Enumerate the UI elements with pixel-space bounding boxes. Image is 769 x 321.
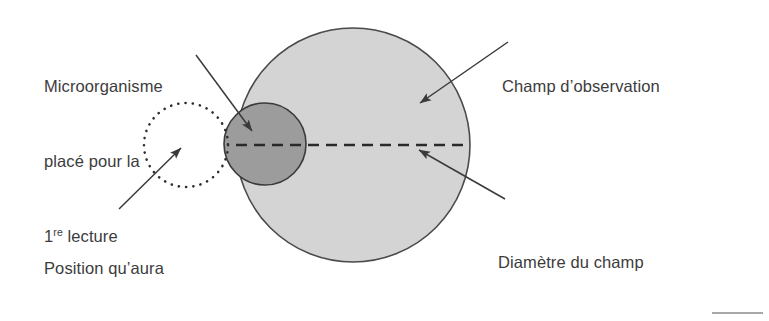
label-champ-line-1: Champ d’observation bbox=[502, 74, 660, 99]
diagram-figure: Microorganisme placé pour la 1re lecture… bbox=[0, 0, 769, 321]
label-microorganisme-line-1: Microorganisme bbox=[44, 74, 163, 99]
label-champ-observation: Champ d’observation bbox=[502, 24, 660, 149]
leader-microorganisme-arrow bbox=[196, 55, 252, 131]
label-position: Position qu’aura le microorganisme pour … bbox=[44, 206, 181, 321]
label-position-line-1: Position qu’aura bbox=[44, 256, 181, 281]
label-microorganisme-line-2: placé pour la bbox=[44, 149, 163, 174]
label-diametre-champ: Diamètre du champ d’observation bbox=[498, 200, 644, 321]
label-diametre-line-1: Diamètre du champ bbox=[498, 250, 644, 275]
